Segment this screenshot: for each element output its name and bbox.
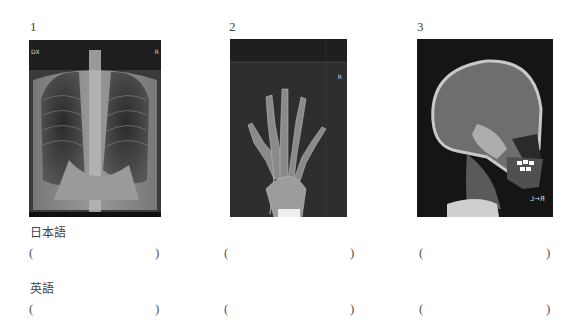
english-section-label: 英語 <box>30 283 54 295</box>
figure-number-2: 2 <box>229 20 236 33</box>
close-paren: ) <box>350 246 354 259</box>
close-paren: ) <box>350 302 354 315</box>
chest-corner-label-left: DX <box>31 49 40 55</box>
chest-xray-image: DX R <box>29 40 161 217</box>
hand-xray-graphic <box>230 39 347 217</box>
hand-xray-image: R <box>230 39 347 217</box>
open-paren: ( <box>224 302 228 315</box>
close-paren: ) <box>546 302 550 315</box>
japanese-section-label: 日本語 <box>30 227 66 239</box>
hand-corner-label-right: R <box>338 74 342 80</box>
figure-number-1: 1 <box>30 20 37 33</box>
open-paren: ( <box>419 246 423 259</box>
chest-xray-graphic <box>29 40 161 217</box>
close-paren: ) <box>155 246 159 259</box>
chest-corner-label-right: R <box>155 49 159 55</box>
close-paren: ) <box>546 246 550 259</box>
skull-xray-graphic <box>417 39 553 217</box>
open-paren: ( <box>29 246 33 259</box>
open-paren: ( <box>29 302 33 315</box>
close-paren: ) <box>155 302 159 315</box>
skull-orientation-marker: R←L <box>530 196 545 203</box>
figure-number-3: 3 <box>417 20 424 33</box>
skull-xray-image: R←L <box>417 39 553 217</box>
open-paren: ( <box>224 246 228 259</box>
open-paren: ( <box>419 302 423 315</box>
